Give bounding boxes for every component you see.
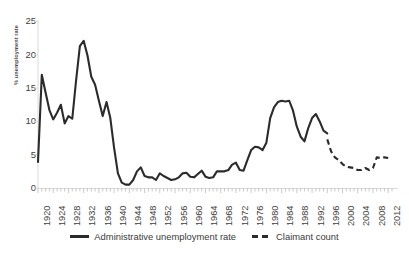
x-axis-tick-label: 2000 (346, 206, 356, 226)
x-axis-tick-label: 2004 (361, 206, 371, 226)
x-axis-tick-label: 1980 (270, 206, 280, 226)
chart-legend: Administrative unemployment rate Claiman… (0, 231, 409, 242)
x-axis-tick-label: 1920 (42, 206, 52, 226)
legend-item-claimant-count: Claimant count (252, 231, 339, 242)
x-axis-tick-label: 1984 (285, 206, 295, 226)
x-axis-tick-label: 1988 (300, 206, 310, 226)
x-axis-tick-label: 2008 (377, 206, 387, 226)
x-axis-tick-label: 1968 (224, 206, 234, 226)
x-axis-tick-label: 1972 (240, 206, 250, 226)
x-axis-tick-label: 1976 (255, 206, 265, 226)
solid-line-icon (70, 235, 89, 238)
y-axis-ticks (35, 22, 39, 189)
unemployment-chart: % unemployment rate 0510152025 192019241… (0, 0, 409, 257)
legend-label-claimant: Claimant count (276, 231, 339, 242)
axis-lines (38, 20, 398, 189)
x-axis-tick-label: 1964 (209, 206, 219, 226)
x-axis-tick-label: 1940 (118, 206, 128, 226)
series-administrative-unemployment-rate (38, 41, 327, 185)
x-axis-tick-label: 1936 (103, 206, 113, 226)
x-axis-tick-label: 1932 (87, 206, 97, 226)
series-claimant-count (327, 139, 388, 170)
x-axis-tick-label: 1996 (331, 206, 341, 226)
legend-item-administrative-unemployment-rate: Administrative unemployment rate (70, 231, 236, 242)
legend-label-administrative: Administrative unemployment rate (94, 231, 236, 242)
x-axis-tick-label: 1960 (194, 206, 204, 226)
x-axis-tick-label: 1992 (316, 206, 326, 226)
x-axis-tick-label: 1924 (57, 206, 67, 226)
x-axis-tick-label: 1928 (72, 206, 82, 226)
x-axis-tick-label: 1948 (148, 206, 158, 226)
dashed-line-icon (252, 235, 271, 238)
x-axis-tick-label: 1956 (179, 206, 189, 226)
x-axis-tick-label: 2012 (392, 206, 402, 226)
x-axis-tick-label: 1952 (163, 206, 173, 226)
x-axis-tick-label: 1944 (133, 206, 143, 226)
